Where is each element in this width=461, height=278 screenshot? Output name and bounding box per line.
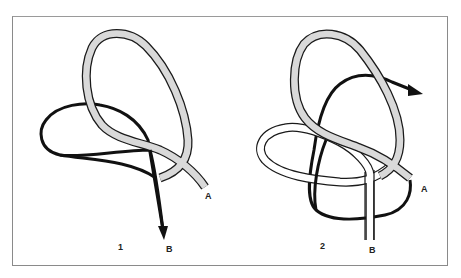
label-working-end-b: B xyxy=(166,245,173,254)
label-standing-end-a: A xyxy=(421,185,428,194)
step-label-2: 2 xyxy=(320,242,325,251)
black-rope-working-end xyxy=(150,150,163,230)
arrowhead-icon xyxy=(408,84,423,96)
panel-1 xyxy=(41,34,205,241)
panel-2 xyxy=(261,34,423,240)
label-working-end-b: B xyxy=(369,246,376,255)
arrowhead-icon xyxy=(158,226,168,240)
label-standing-end-a: A xyxy=(205,192,212,201)
step-label-1: 1 xyxy=(118,243,123,252)
knot-diagram xyxy=(0,0,461,278)
